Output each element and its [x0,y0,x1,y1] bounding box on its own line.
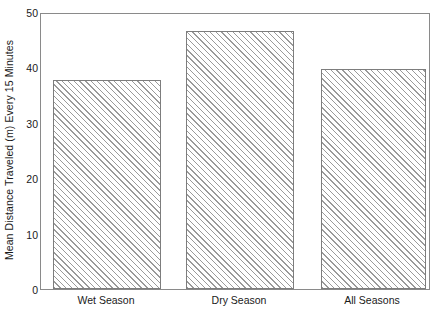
bar-dry-season [186,31,294,290]
y-axis-tick-labels: 0 10 20 30 40 50 [14,0,38,310]
x-tick-label-wet-season: Wet Season [77,294,134,306]
y-tick-label-20: 20 [18,173,38,185]
y-tick-label-10: 10 [18,229,38,241]
bar-all-seasons [321,69,426,289]
bar-wet-season [53,80,161,289]
x-tick-label-dry-season: Dry Season [212,294,267,306]
y-tick-label-30: 30 [18,118,38,130]
y-tick-label-50: 50 [18,7,38,19]
y-tick-label-40: 40 [18,62,38,74]
plot-inner [41,14,429,289]
plot-area [40,13,430,290]
y-tick-label-0: 0 [18,284,38,296]
x-tick-label-all-seasons: All Seasons [344,294,399,306]
bar-chart-figure: Mean Distance Traveled (m) Every 15 Minu… [0,0,439,310]
